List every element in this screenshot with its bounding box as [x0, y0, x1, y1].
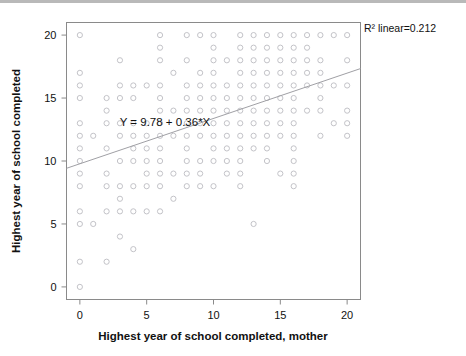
- data-point: [131, 95, 136, 100]
- data-point: [318, 32, 323, 37]
- data-point: [104, 95, 109, 100]
- regression-equation-label: Y = 9.78 + 0.36*X: [120, 116, 211, 128]
- data-point: [184, 158, 189, 163]
- data-point: [144, 133, 149, 138]
- data-point: [278, 45, 283, 50]
- data-point: [117, 196, 122, 201]
- data-point: [238, 171, 243, 176]
- data-point: [251, 95, 256, 100]
- data-point: [117, 234, 122, 239]
- data-point: [238, 158, 243, 163]
- data-point: [264, 58, 269, 63]
- data-point: [278, 108, 283, 113]
- data-point: [131, 133, 136, 138]
- data-point: [264, 83, 269, 88]
- data-point: [77, 121, 82, 126]
- data-point-group: [77, 32, 349, 289]
- data-point: [251, 45, 256, 50]
- data-point: [198, 184, 203, 189]
- x-axis-tick-labels: 05101520: [77, 309, 353, 321]
- data-point: [345, 108, 350, 113]
- data-point: [77, 32, 82, 37]
- data-point: [304, 70, 309, 75]
- data-point: [238, 70, 243, 75]
- data-point: [264, 108, 269, 113]
- data-point: [184, 83, 189, 88]
- data-point: [238, 184, 243, 189]
- data-point: [184, 58, 189, 63]
- data-point: [77, 284, 82, 289]
- data-point: [264, 133, 269, 138]
- data-point: [77, 209, 82, 214]
- data-point: [104, 171, 109, 176]
- data-point: [331, 32, 336, 37]
- data-point: [157, 209, 162, 214]
- data-point: [198, 83, 203, 88]
- data-point: [171, 171, 176, 176]
- data-point: [291, 171, 296, 176]
- data-point: [291, 95, 296, 100]
- data-point: [238, 121, 243, 126]
- data-point: [238, 146, 243, 151]
- data-point: [264, 146, 269, 151]
- data-point: [117, 133, 122, 138]
- data-point: [211, 158, 216, 163]
- data-point: [77, 171, 82, 176]
- data-point: [318, 58, 323, 63]
- data-point: [318, 70, 323, 75]
- data-point: [331, 121, 336, 126]
- data-point: [224, 146, 229, 151]
- data-point: [131, 209, 136, 214]
- data-point: [77, 146, 82, 151]
- data-point: [304, 58, 309, 63]
- data-point: [198, 32, 203, 37]
- y-tick-label-20: 20: [44, 29, 56, 41]
- data-point: [77, 83, 82, 88]
- data-point: [224, 171, 229, 176]
- data-point: [224, 58, 229, 63]
- data-point: [238, 95, 243, 100]
- data-point: [304, 45, 309, 50]
- data-point: [318, 133, 323, 138]
- data-point: [238, 133, 243, 138]
- data-point: [144, 171, 149, 176]
- data-point: [291, 83, 296, 88]
- data-point: [171, 70, 176, 75]
- data-point: [77, 184, 82, 189]
- data-point: [251, 121, 256, 126]
- data-point: [211, 108, 216, 113]
- data-point: [157, 32, 162, 37]
- data-point: [278, 133, 283, 138]
- data-point: [224, 108, 229, 113]
- data-point: [224, 95, 229, 100]
- r-squared-label: R² linear=0.212: [364, 22, 436, 34]
- data-point: [251, 133, 256, 138]
- data-point: [224, 133, 229, 138]
- data-point: [77, 221, 82, 226]
- data-point: [251, 32, 256, 37]
- data-point: [238, 45, 243, 50]
- data-point: [251, 146, 256, 151]
- data-point: [345, 121, 350, 126]
- data-point: [264, 45, 269, 50]
- x-axis-ticks: [80, 300, 347, 305]
- data-point: [224, 83, 229, 88]
- data-point: [211, 95, 216, 100]
- data-point: [104, 108, 109, 113]
- data-point: [104, 209, 109, 214]
- data-point: [291, 158, 296, 163]
- data-point: [251, 221, 256, 226]
- x-tick-label-0: 0: [77, 309, 83, 321]
- scatter-chart: 05101520 05101520 Y = 9.78 + 0.36*X R² l…: [0, 0, 466, 356]
- data-point: [345, 83, 350, 88]
- x-axis-title: Highest year of school completed, mother: [98, 330, 328, 342]
- plot-frame: [67, 23, 361, 300]
- data-point: [77, 70, 82, 75]
- data-point: [117, 184, 122, 189]
- data-point: [224, 121, 229, 126]
- data-point: [291, 184, 296, 189]
- data-point: [184, 32, 189, 37]
- data-point: [345, 58, 350, 63]
- data-point: [184, 171, 189, 176]
- data-point: [291, 108, 296, 113]
